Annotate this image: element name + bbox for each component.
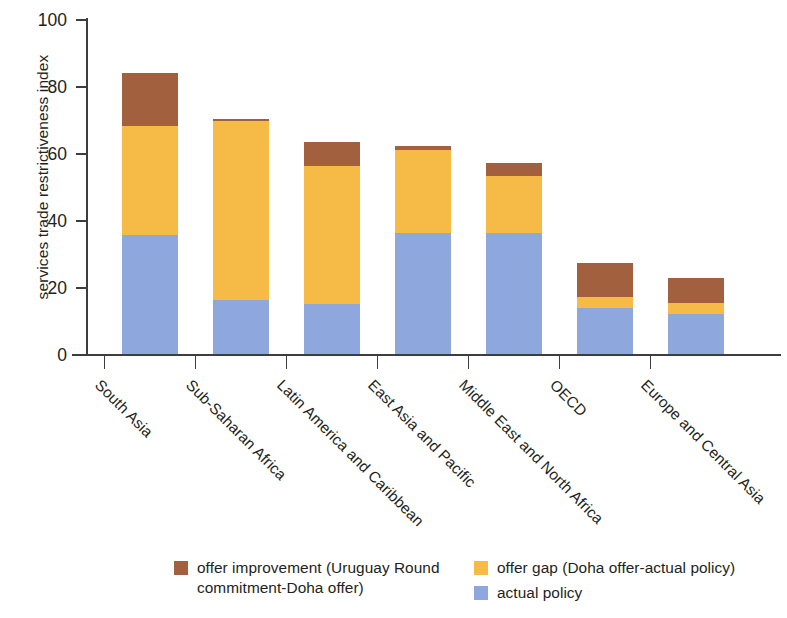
y-tick-label-20: 20	[48, 277, 67, 298]
legend-swatch-offer-gap	[474, 561, 488, 575]
legend-label-actual-policy: actual policy	[497, 583, 582, 603]
x-axis-label-6: Europe and Central Asia	[637, 376, 769, 508]
x-tick-1	[286, 356, 288, 369]
y-tick-100: 100	[76, 19, 86, 21]
bar-segment-offer	[304, 166, 360, 304]
bar-segment-offer	[577, 297, 633, 308]
x-axis-label-2: Latin America and Caribbean	[273, 376, 427, 530]
bar-segment-offer	[486, 163, 542, 176]
legend-item-actual-policy: actual policy	[474, 583, 774, 603]
legend-item-offer-gap: offer gap (Doha offer-actual policy)	[474, 558, 774, 578]
bar-segment-offer	[577, 263, 633, 297]
plot-area: 020406080100 South AsiaSub-Saharan Afric…	[86, 18, 782, 356]
y-tick-40: 40	[76, 220, 86, 222]
legend-swatch-offer-improvement	[174, 561, 188, 575]
bar-segment-offer	[122, 126, 178, 235]
x-axis-label-4: Middle East and North Africa	[455, 376, 607, 528]
bar-segment-actual	[304, 304, 360, 354]
bar-segment-offer	[304, 142, 360, 166]
bar-oecd	[577, 263, 633, 354]
bar-segment-offer	[395, 150, 451, 234]
legend-label-line2: commitment-Doha offer)	[197, 579, 364, 596]
legend-item-offer-improvement: offer improvement (Uruguay Roundcommitme…	[174, 558, 474, 598]
bar-segment-offer	[668, 278, 724, 303]
bar-middle-east-and-north-africa	[486, 163, 542, 354]
x-tick-5	[650, 356, 652, 369]
bar-segment-actual	[577, 308, 633, 354]
legend-label-offer-improvement: offer improvement (Uruguay Roundcommitme…	[197, 558, 440, 598]
x-axis-label-1: Sub-Saharan Africa	[182, 376, 290, 484]
x-axis-line	[72, 354, 781, 356]
y-tick-20: 20	[76, 287, 86, 289]
x-tick-2	[377, 356, 379, 369]
y-tick-80: 80	[76, 86, 86, 88]
x-tick-start	[104, 356, 106, 369]
legend-column-right: offer gap (Doha offer-actual policy) act…	[474, 558, 774, 608]
bar-segment-actual	[668, 314, 724, 354]
bar-south-asia	[122, 73, 178, 354]
bar-segment-actual	[486, 233, 542, 354]
y-tick-label-40: 40	[48, 210, 67, 231]
y-tick-label-60: 60	[48, 143, 67, 164]
bar-segment-offer	[486, 176, 542, 233]
bar-segment-actual	[213, 300, 269, 354]
stacked-bar-chart: services trade restrictiveness index 020…	[0, 0, 787, 618]
bar-segment-offer	[213, 121, 269, 300]
legend-label-line1: offer improvement (Uruguay Round	[197, 559, 440, 576]
bar-europe-and-central-asia	[668, 278, 724, 354]
x-tick-3	[468, 356, 470, 369]
legend-column-left: offer improvement (Uruguay Roundcommitme…	[174, 558, 474, 603]
y-tick-label-100: 100	[38, 9, 67, 30]
legend-swatch-actual-policy	[474, 586, 488, 600]
bar-sub-saharan-africa	[213, 119, 269, 354]
x-axis-label-5: OECD	[546, 376, 590, 420]
x-tick-0	[195, 356, 197, 369]
y-tick-60: 60	[76, 153, 86, 155]
y-tick-0: 0	[76, 354, 86, 356]
bar-segment-actual	[122, 235, 178, 354]
y-tick-label-0: 0	[57, 344, 67, 365]
x-tick-4	[559, 356, 561, 369]
bar-segment-offer	[668, 303, 724, 314]
bar-segment-offer	[122, 73, 178, 127]
x-axis-label-0: South Asia	[91, 376, 156, 441]
y-axis-line	[86, 18, 88, 356]
bar-segment-actual	[395, 233, 451, 354]
bar-latin-america-and-caribbean	[304, 142, 360, 354]
bar-east-asia-and-pacific	[395, 146, 451, 354]
y-tick-label-80: 80	[48, 76, 67, 97]
legend-label-offer-gap: offer gap (Doha offer-actual policy)	[497, 558, 735, 578]
